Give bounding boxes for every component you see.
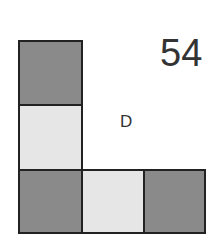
cell-r1-c0-light bbox=[18, 104, 83, 171]
puzzle-number: 54 bbox=[160, 34, 202, 72]
option-letter: D bbox=[120, 113, 132, 130]
cell-r0-c0-dark bbox=[18, 40, 83, 106]
cell-r2-c2-dark bbox=[143, 169, 206, 234]
cell-r2-c1-light bbox=[81, 169, 145, 234]
cell-r2-c0-dark bbox=[18, 169, 83, 234]
